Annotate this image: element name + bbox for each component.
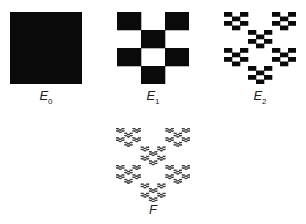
figure-e0: [10, 12, 82, 84]
e2-pattern: [224, 12, 296, 84]
label-e0: E0: [26, 88, 66, 106]
label-e2: E2: [240, 88, 280, 106]
label-f: F: [133, 202, 173, 220]
e0-square: [10, 12, 82, 84]
f-fractal: [116, 128, 190, 202]
figure-e1: [117, 12, 189, 84]
e1-pattern: [117, 12, 189, 84]
label-e1: E1: [133, 88, 173, 106]
figure-e2: [224, 12, 296, 84]
figure-f: [116, 128, 190, 202]
